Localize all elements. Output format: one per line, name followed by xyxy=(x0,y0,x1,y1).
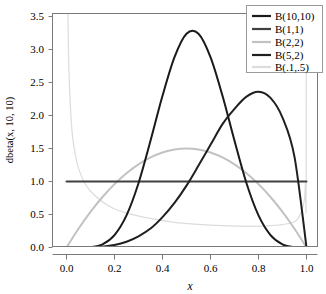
x-axis: 0.0 0.2 0.4 0.6 0.8 1.0 xyxy=(53,255,318,275)
y-axis: 3.5 3.0 2.5 2.0 1.5 1.0 0.5 0.0 xyxy=(30,10,52,253)
legend-label-0: B(10,10) xyxy=(275,10,315,23)
y-tick-label: 2.0 xyxy=(30,109,44,121)
x-tick-label: 0.2 xyxy=(108,262,122,274)
legend: B(10,10) B(1,1) B(2,2) B(5,2) B(.1,.5) xyxy=(247,6,323,75)
y-tick-label: 0.0 xyxy=(30,241,44,253)
plot-canvas: 3.5 3.0 2.5 2.0 1.5 1.0 0.5 0.0 0.0 0.2 … xyxy=(0,0,326,294)
y-tick-label: 0.5 xyxy=(30,208,44,220)
legend-label-2: B(2,2) xyxy=(275,36,304,49)
y-axis-title: dbeta(x, 10, 10) xyxy=(4,96,16,163)
x-axis-title: x xyxy=(186,280,193,292)
y-tick-label: 3.5 xyxy=(30,10,44,22)
x-tick-label: 0.8 xyxy=(252,262,266,274)
y-tick-label: 3.0 xyxy=(30,43,44,55)
legend-label-4: B(.1,.5) xyxy=(275,61,309,74)
x-tick-label: 0.0 xyxy=(60,262,74,274)
x-tick-label: 0.6 xyxy=(204,262,218,274)
x-tick-label: 1.0 xyxy=(300,262,314,274)
y-tick-label: 1.5 xyxy=(30,142,44,154)
chart-figure: 3.5 3.0 2.5 2.0 1.5 1.0 0.5 0.0 0.0 0.2 … xyxy=(0,0,326,294)
x-tick-label: 0.4 xyxy=(156,262,170,274)
curve-B(2,2) xyxy=(67,149,307,248)
y-tick-label: 2.5 xyxy=(30,76,44,88)
legend-label-1: B(1,1) xyxy=(275,23,304,36)
y-tick-label: 1.0 xyxy=(30,175,44,187)
